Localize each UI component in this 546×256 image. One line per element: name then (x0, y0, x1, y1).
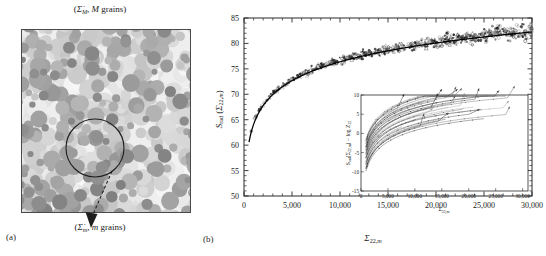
panel-b: Srad (Σ22,m) 05,00010,00015,00020,00025,… (200, 0, 546, 256)
svg-text:10: 10 (354, 92, 360, 98)
panel-a-top-annotation: (Σ̇M, M grains) (0, 4, 200, 15)
main-plot-x-axis-label: Σ22,m (200, 233, 546, 244)
svg-text:65: 65 (231, 116, 239, 125)
svg-text:70: 70 (231, 90, 239, 99)
svg-text:20,000: 20,000 (462, 193, 477, 199)
svg-text:50: 50 (231, 192, 239, 201)
svg-text:15,000: 15,000 (377, 201, 399, 210)
svg-text:85: 85 (231, 14, 239, 23)
svg-text:60: 60 (231, 141, 239, 150)
svg-text:55: 55 (231, 167, 239, 176)
arrow-shaft (91, 171, 112, 219)
svg-text:75: 75 (231, 65, 239, 74)
svg-text:-5: -5 (355, 150, 360, 156)
svg-text:15,000: 15,000 (435, 193, 450, 199)
bottom-annotation-text: (Σ̇m, m grains) (74, 222, 125, 232)
svg-text:5,000: 5,000 (382, 193, 394, 199)
svg-text:0: 0 (242, 201, 246, 210)
svg-text:10,000: 10,000 (408, 193, 423, 199)
panel-a-bottom-annotation: (Σ̇m, m grains) (0, 222, 200, 233)
svg-text:5,000: 5,000 (283, 201, 301, 210)
svg-text:30,000: 30,000 (515, 193, 530, 199)
panel-a-label: (a) (6, 232, 16, 242)
svg-text:-15: -15 (352, 188, 359, 194)
panel-b-label: (b) (203, 234, 214, 244)
svg-text:0: 0 (360, 193, 363, 199)
figure-container: (Σ̇M, M grains) (Σ̇m, m grains) (a) Srad… (0, 0, 546, 256)
svg-text:-10: -10 (352, 169, 359, 175)
svg-text:0: 0 (356, 130, 359, 136)
svg-text:10,000: 10,000 (329, 201, 351, 210)
svg-text:25,000: 25,000 (489, 193, 504, 199)
svg-text:25,000: 25,000 (473, 201, 495, 210)
panel-a: (Σ̇M, M grains) (Σ̇m, m grains) (a) (0, 0, 200, 256)
callout-arrow (21, 29, 189, 239)
top-annotation-text: (Σ̇M, M grains) (74, 4, 127, 14)
svg-text:30,000: 30,000 (521, 201, 543, 210)
main-plot: 05,00010,00015,00020,00025,00030,0005055… (200, 0, 546, 232)
svg-text:80: 80 (231, 39, 239, 48)
svg-text:5: 5 (356, 111, 359, 117)
